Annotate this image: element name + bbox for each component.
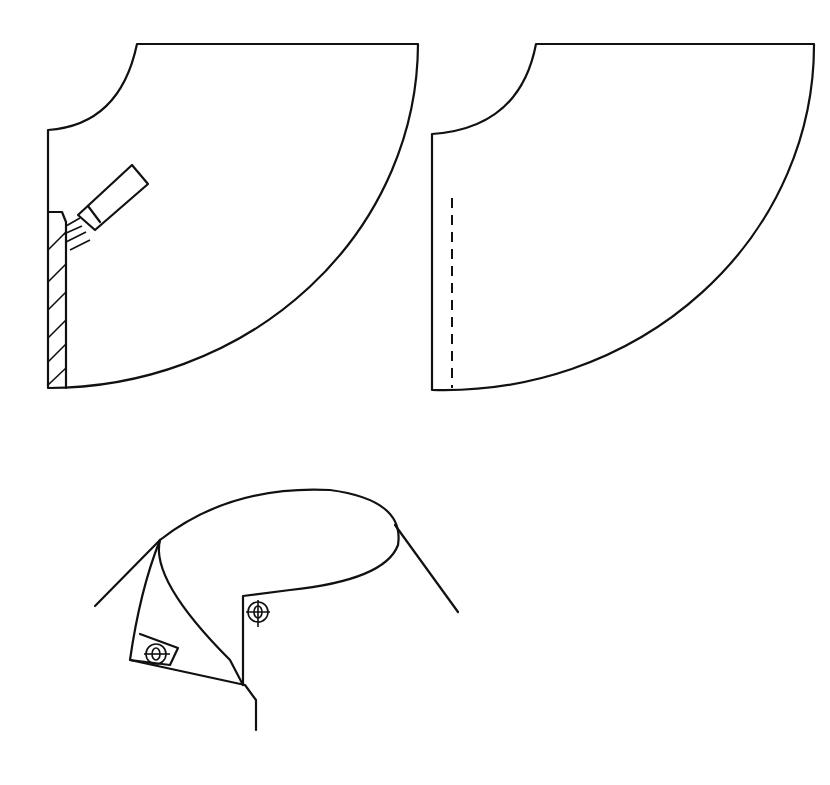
button-icon [246, 600, 270, 627]
finished-collar [95, 490, 458, 730]
button-icon [144, 644, 170, 664]
collar-piece-left [48, 44, 418, 388]
collar-piece-right [432, 44, 814, 390]
glue-brush-icon [64, 165, 148, 250]
glued-edge-hatch [48, 212, 66, 388]
diagram-canvas [0, 0, 830, 785]
